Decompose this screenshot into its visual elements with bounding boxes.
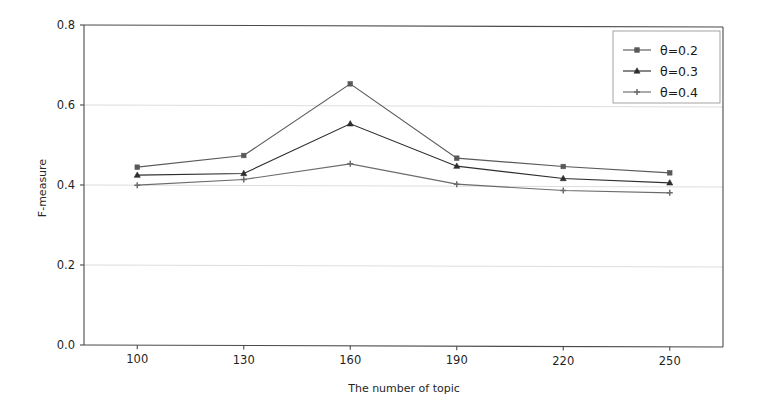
x-tick-label: 220 — [552, 354, 574, 368]
x-tick-label: 250 — [659, 354, 681, 368]
legend-label: θ=0.2 — [660, 43, 698, 58]
x-tick-label: 190 — [446, 353, 468, 367]
legend-label: θ=0.4 — [660, 85, 698, 100]
y-tick-label: 0.8 — [57, 18, 75, 32]
line-chart-figure: 0.00.20.40.60.8 100130160190220250 F-mea… — [0, 0, 761, 407]
data-point-marker-square — [241, 153, 246, 158]
y-axis-title: F-measure — [36, 159, 49, 218]
data-point-marker-square — [135, 165, 140, 170]
data-point-marker-square — [454, 156, 459, 161]
y-tick-label: 0.0 — [57, 338, 75, 352]
legend-label: θ=0.3 — [660, 64, 698, 79]
y-tick-label: 0.4 — [57, 178, 75, 192]
x-tick-label: 100 — [126, 352, 148, 366]
data-point-marker-square — [635, 48, 640, 53]
data-point-marker-square — [561, 164, 566, 169]
x-axis-title: The number of topic — [347, 382, 460, 395]
chart-legend: θ=0.2θ=0.3θ=0.4 — [613, 31, 720, 103]
data-point-marker-square — [348, 82, 353, 87]
x-tick-label: 160 — [339, 353, 361, 367]
y-tick-label: 0.2 — [57, 258, 75, 272]
x-tick-label: 130 — [233, 353, 255, 367]
data-point-marker-square — [667, 171, 672, 176]
y-tick-label: 0.6 — [57, 98, 75, 112]
